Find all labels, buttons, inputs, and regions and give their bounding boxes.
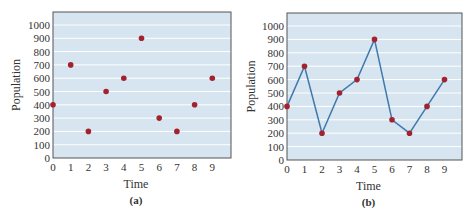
data-point	[86, 129, 92, 135]
data-point	[389, 117, 395, 123]
data-point	[121, 75, 127, 81]
x-tick-label: 7	[174, 161, 180, 173]
x-tick-label: 0	[284, 163, 290, 175]
y-tick-label: 200	[268, 127, 285, 139]
y-tick-label: 400	[34, 99, 51, 111]
data-point	[68, 62, 74, 68]
scatter-chart-a: 0100200300400500600700800900100001234567…	[0, 0, 235, 214]
y-tick-label: 600	[34, 72, 51, 84]
x-tick-label: 8	[192, 161, 198, 173]
y-tick-label: 500	[268, 87, 285, 99]
x-tick-label: 9	[210, 161, 216, 173]
data-point	[302, 63, 308, 69]
x-tick-label: 7	[407, 163, 413, 175]
data-point	[319, 130, 325, 136]
data-point	[284, 104, 290, 110]
y-tick-label: 300	[34, 112, 51, 124]
data-point	[210, 75, 216, 81]
y-tick-label: 100	[268, 141, 285, 153]
y-tick-label: 300	[268, 114, 285, 126]
y-axis-label: Population	[9, 59, 23, 111]
subfigure-caption: (a)	[130, 194, 143, 207]
x-tick-label: 8	[424, 163, 430, 175]
x-tick-label: 6	[156, 161, 162, 173]
y-tick-label: 1000	[262, 20, 285, 32]
y-tick-label: 900	[268, 33, 285, 45]
data-point	[372, 37, 378, 43]
x-tick-label: 2	[319, 163, 325, 175]
y-tick-label: 700	[268, 60, 285, 72]
y-tick-label: 400	[268, 100, 285, 112]
subfigure-caption: (b)	[362, 196, 376, 209]
y-tick-label: 1000	[28, 19, 51, 31]
y-tick-label: 200	[34, 125, 51, 137]
data-point	[139, 36, 145, 42]
data-point	[424, 104, 430, 110]
x-tick-label: 6	[389, 163, 395, 175]
data-point	[442, 77, 448, 83]
x-tick-label: 4	[354, 163, 360, 175]
y-tick-label: 100	[34, 139, 51, 151]
x-axis-label: Time	[124, 177, 149, 191]
data-point	[337, 90, 343, 96]
y-axis-label: Population	[244, 60, 258, 112]
x-tick-label: 4	[121, 161, 127, 173]
x-tick-label: 2	[86, 161, 92, 173]
x-tick-label: 3	[103, 161, 109, 173]
x-axis-label: Time	[356, 179, 381, 193]
y-tick-label: 800	[268, 47, 285, 59]
data-point	[103, 89, 109, 95]
data-point	[407, 130, 413, 136]
y-tick-label: 900	[34, 32, 51, 44]
plot-background	[287, 13, 462, 160]
x-tick-label: 1	[302, 163, 308, 175]
plot-background	[53, 12, 231, 158]
data-point	[50, 102, 56, 108]
x-tick-label: 0	[50, 161, 56, 173]
data-point	[192, 102, 198, 108]
line-chart-b: 0100200300400500600700800900100001234567…	[235, 0, 469, 214]
x-tick-label: 1	[68, 161, 74, 173]
y-tick-label: 500	[34, 86, 51, 98]
y-tick-label: 600	[268, 74, 285, 86]
data-point	[156, 115, 162, 121]
y-tick-label: 800	[34, 46, 51, 58]
x-tick-label: 5	[139, 161, 145, 173]
x-tick-label: 5	[372, 163, 378, 175]
data-point	[354, 77, 360, 83]
data-point	[174, 129, 180, 135]
y-tick-label: 700	[34, 59, 51, 71]
x-tick-label: 3	[337, 163, 343, 175]
x-tick-label: 9	[442, 163, 448, 175]
